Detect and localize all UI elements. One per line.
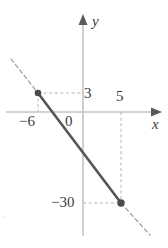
endpoint-lower-right bbox=[117, 199, 124, 206]
origin-label: 0 bbox=[65, 114, 73, 129]
y-axis-label: y bbox=[92, 14, 99, 29]
y-tick-label-3: 3 bbox=[84, 86, 92, 101]
x-tick-label-minus6: −6 bbox=[19, 114, 35, 129]
corner-artifact: ▫ bbox=[2, 214, 4, 221]
line-extension-upper-left bbox=[11, 59, 38, 93]
x-tick-label-5: 5 bbox=[116, 89, 124, 104]
endpoint-upper-left bbox=[35, 90, 42, 97]
y-tick-label-minus30: −30 bbox=[51, 195, 74, 210]
coordinate-plane-figure: 3 5 −6 0 −30 y x ▫ bbox=[0, 0, 168, 248]
y-axis-arrow-icon bbox=[79, 14, 88, 25]
line-extension-lower-right bbox=[121, 203, 150, 235]
line-segment bbox=[38, 93, 121, 203]
line-extension-group bbox=[11, 59, 150, 235]
x-axis-label: x bbox=[152, 117, 159, 132]
